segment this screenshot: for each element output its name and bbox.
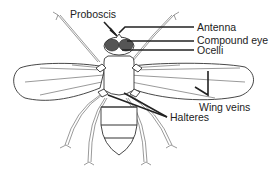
label-proboscis: Proboscis	[70, 8, 116, 20]
front-leg-left	[58, 15, 98, 62]
antenna-leader	[119, 27, 194, 33]
compound-eye-left	[105, 39, 119, 51]
label-halteres: Halteres	[170, 111, 209, 123]
abdomen	[101, 107, 137, 155]
label-ocelli: Ocelli	[197, 44, 223, 56]
label-antenna: Antenna	[197, 21, 236, 33]
head	[104, 34, 134, 55]
fly-illustration: Proboscis Antenna Compound eye Ocelli Wi…	[0, 0, 275, 169]
front-leg-right	[132, 15, 174, 62]
fly-diagram: Proboscis Antenna Compound eye Ocelli Wi…	[0, 0, 275, 169]
